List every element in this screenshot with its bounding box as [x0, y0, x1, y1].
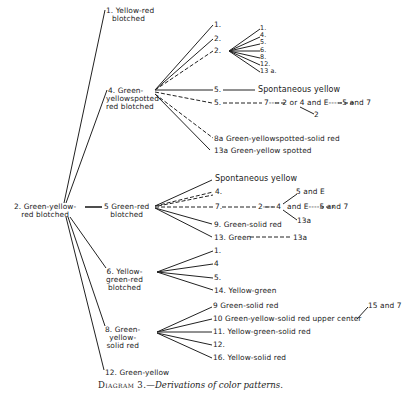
n4-5a-spontaneous-yellow: Spontaneous yellow: [258, 86, 340, 94]
node-1-line2: blotched: [106, 15, 154, 23]
n4-5b-sub-2: 2: [314, 111, 319, 119]
node-6-line3: blotched: [106, 284, 143, 292]
node-8-green-yellow-solid-red: 8. Green- yellow- solid red: [105, 326, 140, 350]
n5-13-chain-13a: 13a: [293, 234, 307, 242]
caption-prefix: Diagram 3.: [98, 380, 146, 390]
n8-10-next-15-and-7: 15 and 7: [368, 302, 402, 310]
n6-child-4: 4: [214, 260, 219, 268]
n5-7-chain-b: and E----5 and 7: [287, 203, 348, 211]
node-1-yellow-red-blotched: 1. Yellow-red blotched: [106, 7, 154, 23]
n4-child-2a: 2.: [214, 35, 221, 43]
node-4-green-yellowspotted-red-blotched: 4. Green- yellowspotted- red blotched: [106, 87, 162, 111]
node-6-yellow-green-red-blotched: 6. Yellow- green-red blotched: [106, 268, 143, 292]
n6-child-1: 1.: [214, 247, 221, 255]
n5-7-up-5-and-e: 5 and E: [296, 188, 325, 196]
edge-root-n8: [68, 217, 105, 326]
node-root: 2. Green-yellow- red blotched: [14, 203, 76, 219]
n4-child-5a: 5.: [214, 86, 221, 94]
n8-child-9: 9 Green-solid red: [213, 302, 278, 310]
n6-child-5: 5.: [214, 274, 221, 282]
diagram-caption: Diagram 3.—Derivations of color patterns…: [98, 380, 283, 390]
n4-child-1: 1.: [214, 21, 221, 29]
caption-text: —Derivations of color patterns.: [146, 380, 283, 390]
node-8-line3: solid red: [105, 342, 140, 350]
edge-root-n6: [70, 217, 106, 268]
n8-child-12: 12.: [213, 341, 225, 349]
edge-root-n12: [66, 217, 104, 370]
n5-child-7: 7.: [215, 203, 222, 211]
n4-2b-sub: 13 a.: [260, 68, 277, 75]
n5-child-9: 9. Green-solid red: [214, 221, 282, 229]
n5-child-spontaneous-yellow: Spontaneous yellow: [215, 175, 297, 183]
node-4-line3: red blotched: [106, 103, 162, 111]
node-12-green-yellow: 12. Green-yellow: [105, 369, 169, 377]
n4-child-13a: 13a Green-yellow spotted: [214, 147, 312, 155]
node-5-line2: blotched: [104, 211, 149, 219]
n5-7-down-13a: 13a: [297, 217, 311, 225]
node-5-green-red-blotched: 5 Green-red blotched: [104, 203, 149, 219]
n4-5b-chain: 7---- 2 or 4 and E-----5 and 7: [264, 99, 371, 107]
n6-child-14: 14. Yellow-green: [214, 287, 276, 295]
edge-root-n4: [66, 90, 107, 203]
n4-child-8a: 8a Green-yellowspotted-solid red: [214, 135, 340, 143]
n4-2b-subchildren: 1. 4. 5. 6. 8. 12. 13 a.: [260, 25, 277, 75]
n4-child-2b: 2.: [214, 47, 221, 55]
n5-7-chain-a: 2---- 4: [258, 203, 281, 211]
edge-root-n1: [64, 10, 105, 203]
n5-child-4: 4.: [215, 188, 222, 196]
n8-child-10: 10 Green-yellow-solid red upper center: [213, 315, 362, 323]
diagram-connectors: [0, 0, 413, 400]
node-root-line2: red blotched: [14, 211, 76, 219]
n8-child-16: 16. Yellow-solid red: [213, 354, 286, 362]
n5-child-13: 13. Green: [214, 234, 251, 242]
n4-child-5b: 5.: [214, 99, 221, 107]
n8-child-11: 11. Yellow-green-solid red: [213, 328, 311, 336]
